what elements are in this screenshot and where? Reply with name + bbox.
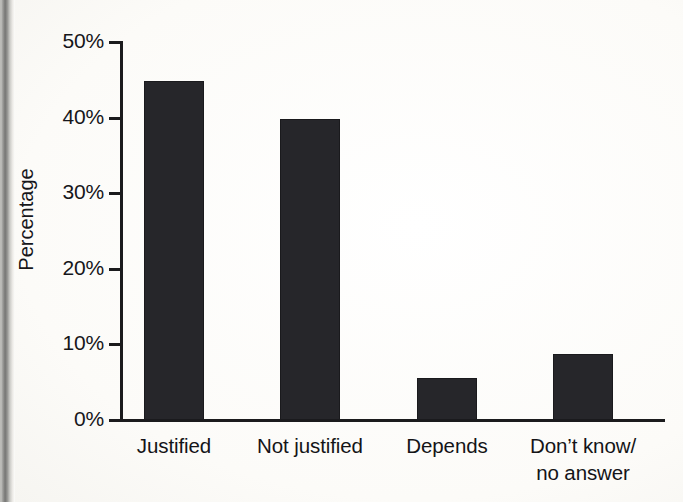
y-tick-label: 10% bbox=[32, 331, 104, 355]
y-tick-mark bbox=[109, 192, 120, 195]
y-tick-mark bbox=[109, 419, 120, 422]
bar-chart: Percentage 0%10%20%30%40%50% JustifiedNo… bbox=[0, 0, 683, 502]
y-tick-label: 40% bbox=[32, 105, 104, 129]
y-tick-mark bbox=[109, 268, 120, 271]
x-tick-label: Don’t know/ no answer bbox=[493, 432, 673, 486]
bar bbox=[280, 119, 340, 420]
bar bbox=[553, 354, 613, 420]
y-tick-mark bbox=[109, 41, 120, 44]
chart-page: Percentage 0%10%20%30%40%50% JustifiedNo… bbox=[0, 0, 683, 502]
y-tick-label: 20% bbox=[32, 256, 104, 280]
y-axis-line bbox=[120, 41, 123, 422]
bar bbox=[417, 378, 477, 420]
bar bbox=[144, 81, 204, 420]
y-tick-mark bbox=[109, 117, 120, 120]
y-tick-label: 0% bbox=[32, 407, 104, 431]
y-tick-mark bbox=[109, 343, 120, 346]
y-tick-label: 50% bbox=[32, 29, 104, 53]
y-tick-label: 30% bbox=[32, 180, 104, 204]
